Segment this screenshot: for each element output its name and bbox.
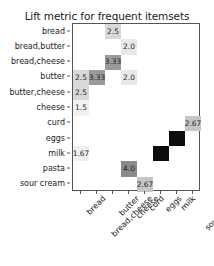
x-axis-tick — [144, 191, 145, 194]
x-axis-tick — [160, 191, 161, 194]
y-axis-tick-label: curd — [47, 118, 65, 127]
y-axis-tick — [67, 137, 70, 138]
y-axis-tick-label: eggs — [46, 133, 65, 142]
y-axis-tick — [67, 91, 70, 92]
x-axis-tick-label: sour cream — [203, 194, 214, 232]
x-axis-labels: breadbread,cheesebuttercheesecurdeggsmil… — [72, 191, 200, 261]
y-axis-tick-label: bread,butter — [15, 41, 65, 50]
y-axis-tick-label: bread,cheese — [11, 57, 65, 66]
heatmap-cell — [153, 146, 169, 161]
heatmap-cell: 2.67 — [185, 116, 201, 131]
heatmap-cell: 3.33 — [89, 70, 105, 85]
x-axis-tick — [112, 191, 113, 194]
heatmap-cell — [169, 131, 185, 146]
page-title: Lift metric for frequent itemsets — [0, 10, 214, 22]
x-axis-tick — [80, 191, 81, 194]
heatmap-cell: 3.33 — [105, 55, 121, 70]
x-axis-tick — [192, 191, 193, 194]
y-axis-tick-label: milk — [48, 148, 65, 157]
x-axis-tick — [176, 191, 177, 194]
y-axis-tick-label: bread — [42, 26, 65, 35]
y-axis-tick — [67, 122, 70, 123]
heatmap-figure: Lift metric for frequent itemsets breadb… — [0, 0, 214, 266]
y-axis-tick — [67, 152, 70, 153]
heatmap-cell: 2.5 — [73, 70, 89, 85]
y-axis-tick-label: butter,cheese — [9, 87, 65, 96]
y-axis-tick-label: butter — [40, 72, 65, 81]
x-axis-tick — [96, 191, 97, 194]
heatmap-cell: 4.0 — [121, 161, 137, 176]
heatmap-plot-area: 2.52.03.332.53.332.02.51.52.671.674.02.6… — [72, 23, 200, 191]
y-axis-tick — [67, 30, 70, 31]
y-axis-tick — [67, 107, 70, 108]
heatmap-cell: 1.5 — [73, 100, 89, 115]
heatmap-cell: 2.0 — [121, 70, 137, 85]
x-axis-tick-label: bread — [85, 194, 108, 217]
y-axis-tick-label: cheese — [37, 103, 65, 112]
y-axis-tick-label: sour cream — [20, 179, 65, 188]
y-axis-labels: breadbread,butterbread,cheesebutterbutte… — [0, 23, 70, 191]
x-axis-tick-label: milk — [179, 194, 197, 212]
y-axis-tick-label: pasta — [43, 164, 65, 173]
y-axis-tick — [67, 183, 70, 184]
heatmap-cell: 2.5 — [73, 85, 89, 100]
x-axis-tick — [128, 191, 129, 194]
y-axis-tick — [67, 45, 70, 46]
y-axis-tick — [67, 76, 70, 77]
y-axis-tick — [67, 61, 70, 62]
heatmap-cell: 2.5 — [105, 24, 121, 39]
y-axis-tick — [67, 168, 70, 169]
heatmap-cell: 2.0 — [121, 39, 137, 54]
heatmap-cell: 2.67 — [137, 177, 153, 192]
heatmap-cell: 1.67 — [73, 146, 89, 161]
